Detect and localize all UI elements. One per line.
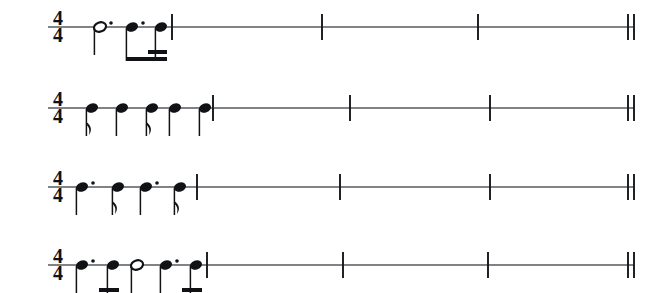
notehead bbox=[168, 102, 183, 115]
music-worksheet: 44444444 bbox=[0, 0, 663, 293]
notehead bbox=[130, 259, 145, 272]
beam-secondary-0 bbox=[99, 288, 119, 292]
notehead bbox=[159, 259, 174, 272]
note-dotted-quarter-note-2 bbox=[139, 181, 159, 215]
flag-0 bbox=[174, 201, 179, 214]
augmentation-dot bbox=[175, 259, 179, 263]
note-eighth-note-1 bbox=[111, 181, 126, 215]
augmentation-dot bbox=[141, 21, 145, 25]
note-sixteenth-note-2 bbox=[154, 21, 169, 61]
time-signature-denominator: 4 bbox=[53, 24, 63, 46]
notehead bbox=[173, 181, 188, 194]
time-signature-denominator: 4 bbox=[53, 262, 63, 284]
note-quarter-note-3 bbox=[168, 102, 183, 136]
notehead bbox=[189, 259, 204, 272]
note-dotted-eighth-note-1 bbox=[125, 21, 145, 61]
notehead bbox=[85, 102, 100, 115]
beam-primary-0 bbox=[126, 57, 167, 61]
note-dotted-eighth-note-3 bbox=[159, 259, 179, 293]
beam-secondary-1 bbox=[182, 288, 202, 292]
notehead bbox=[75, 259, 90, 272]
flag-0 bbox=[112, 201, 117, 214]
augmentation-dot bbox=[91, 181, 95, 185]
note-sixteenth-note-1 bbox=[106, 259, 121, 293]
note-eighth-note-0 bbox=[85, 102, 100, 136]
note-dotted-quarter-note-0 bbox=[75, 181, 95, 215]
notehead bbox=[75, 181, 90, 194]
notehead bbox=[139, 181, 154, 194]
note-half-note-2 bbox=[130, 259, 145, 293]
time-signature-numerator: 4 bbox=[53, 7, 63, 29]
system-2-notation: 44 bbox=[0, 0, 663, 293]
note-dotted-half-note-0 bbox=[93, 21, 113, 55]
notehead bbox=[125, 21, 140, 34]
augmentation-dot bbox=[91, 259, 95, 263]
note-dotted-eighth-note-0 bbox=[75, 259, 95, 293]
note-eighth-note-3 bbox=[173, 181, 188, 215]
time-signature-numerator: 4 bbox=[53, 88, 63, 110]
system-1-notation: 44 bbox=[0, 0, 663, 293]
time-signature-denominator: 4 bbox=[53, 184, 63, 206]
time-signature-numerator: 4 bbox=[53, 167, 63, 189]
system-0-notation: 44 bbox=[0, 0, 663, 293]
note-sixteenth-note-4 bbox=[189, 259, 204, 293]
time-signature-numerator: 4 bbox=[53, 245, 63, 267]
note-quarter-note-4 bbox=[198, 102, 213, 136]
augmentation-dot bbox=[109, 21, 113, 25]
notehead bbox=[106, 259, 121, 272]
beam-secondary-0 bbox=[148, 50, 167, 54]
notehead bbox=[93, 21, 108, 34]
notehead bbox=[198, 102, 213, 115]
system-3-notation: 44 bbox=[0, 0, 663, 293]
augmentation-dot bbox=[155, 181, 159, 185]
flag-0 bbox=[86, 122, 91, 135]
time-signature-denominator: 4 bbox=[53, 105, 63, 127]
flag-0 bbox=[146, 122, 151, 135]
note-quarter-note-1 bbox=[115, 102, 130, 136]
note-eighth-note-2 bbox=[145, 102, 160, 136]
notehead bbox=[111, 181, 126, 194]
notehead bbox=[115, 102, 130, 115]
notehead bbox=[154, 21, 169, 34]
notehead bbox=[145, 102, 160, 115]
